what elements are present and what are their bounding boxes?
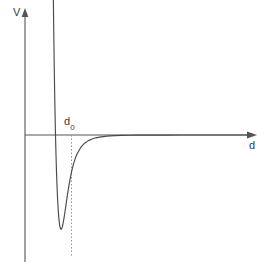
d0-label-subscript: 0 bbox=[70, 123, 74, 132]
plot-canvas bbox=[0, 0, 273, 274]
potential-energy-curve bbox=[52, 0, 248, 229]
y-axis-label: V bbox=[13, 7, 20, 18]
y-axis-arrowhead bbox=[22, 8, 29, 17]
d0-annotation-label: d0 bbox=[64, 116, 75, 130]
x-axis-label: d bbox=[249, 140, 255, 151]
potential-energy-curve-figure: V d d0 bbox=[0, 0, 273, 274]
